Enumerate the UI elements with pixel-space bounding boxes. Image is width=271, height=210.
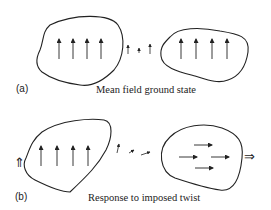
region-a-left-arrows	[59, 39, 101, 59]
region-b-left-arrows	[41, 146, 88, 166]
double-arrow-right-icon: ⇒	[244, 149, 255, 164]
panel-b-label: (b)	[15, 191, 27, 202]
region-a-right-blob	[161, 29, 248, 82]
region-a-right-arrows	[181, 39, 227, 59]
region-a-bridge-arrows	[128, 44, 150, 54]
panel-a-label: (a)	[16, 83, 28, 94]
panel-b-caption: Response to imposed twist	[88, 192, 200, 203]
region-a-left-blob	[37, 16, 123, 85]
panel-a-caption: Mean field ground state	[96, 84, 196, 95]
panel-b: ⇑ ⇒	[14, 119, 255, 192]
panel-a	[37, 16, 248, 85]
region-b-bridge-arrows	[117, 144, 150, 155]
region-b-right-arrows	[179, 145, 229, 168]
region-b-right-blob	[161, 125, 242, 190]
diagram-canvas: ⇑ ⇒	[0, 0, 271, 210]
double-arrow-up-icon: ⇑	[14, 155, 25, 170]
region-b-left-blob	[24, 119, 111, 192]
